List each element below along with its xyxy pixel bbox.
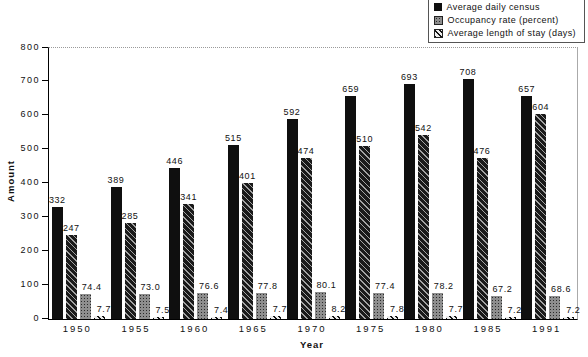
bar-1991-series3: 68.6 — [549, 296, 560, 319]
bar-value-label: 285 — [122, 211, 139, 221]
bar-1960-series3: 76.6 — [197, 293, 208, 319]
bar-value-label: 7.7 — [97, 304, 111, 314]
bar-value-label: 247 — [63, 223, 80, 233]
bar-value-label: 7.8 — [390, 304, 404, 314]
bar-1955-series4: 7.5 — [153, 317, 164, 320]
plot-area: 33224774.47.738928573.07.544634176.67.45… — [48, 47, 578, 320]
x-tick-label-1985: 1985 — [473, 323, 502, 334]
bar-value-label: 7.2 — [507, 305, 521, 315]
bar-value-label: 68.6 — [551, 284, 571, 294]
bar-value-label: 708 — [460, 67, 477, 77]
bar-value-label: 476 — [474, 146, 491, 156]
bar-1980-series3: 78.2 — [432, 293, 443, 320]
bar-value-label: 446 — [166, 156, 183, 166]
bar-group-1985: 70847667.27.2 — [460, 48, 519, 319]
y-tick-label: 200 — [8, 245, 40, 255]
y-tick-label: 0 — [8, 313, 40, 323]
y-axis-title: Amount — [5, 160, 16, 202]
bar-value-label: 7.5 — [155, 305, 169, 315]
bar-1975-series3: 77.4 — [373, 293, 384, 319]
bar-value-label: 77.8 — [258, 281, 278, 291]
bar-1955-series1: 389 — [111, 187, 122, 319]
x-tick-label-1965: 1965 — [239, 323, 268, 334]
bar-1975-series1: 659 — [345, 96, 356, 319]
chart-figure: Average daily censusOccupancy rate (perc… — [0, 0, 588, 357]
bar-value-label: 7.4 — [214, 305, 228, 315]
bar-group-1955: 38928573.07.5 — [108, 48, 167, 319]
bar-value-label: 401 — [239, 171, 256, 181]
y-tick-label: 100 — [8, 279, 40, 289]
y-tick-label: 700 — [8, 75, 40, 85]
bar-1955-series3: 73.0 — [139, 294, 150, 319]
bar-1985-series2: 476 — [477, 158, 488, 319]
bar-group-1970: 59247480.18.2 — [284, 48, 343, 319]
bar-value-label: 474 — [298, 146, 315, 156]
y-tick-label: 500 — [8, 143, 40, 153]
x-tick-label-1980: 1980 — [415, 323, 444, 334]
bar-1970-series4: 8.2 — [329, 316, 340, 319]
bar-value-label: 389 — [108, 175, 125, 185]
bar-value-label: 7.2 — [566, 305, 580, 315]
x-axis-title: Year — [300, 339, 324, 350]
bar-1991-series1: 657 — [521, 96, 532, 319]
solid-black-swatch-icon — [434, 3, 442, 11]
bar-1991-series4: 7.2 — [563, 317, 574, 319]
bar-group-1950: 33224774.47.7 — [49, 48, 108, 319]
legend-item: Average length of stay (days) — [434, 28, 577, 38]
bar-value-label: 67.2 — [492, 284, 512, 294]
bar-group-1960: 44634176.67.4 — [166, 48, 225, 319]
bar-value-label: 332 — [49, 195, 66, 205]
bar-1950-series3: 74.4 — [80, 294, 91, 319]
bar-1955-series2: 285 — [125, 223, 136, 320]
legend-item-label: Occupancy rate (percent) — [448, 15, 559, 25]
legend-item: Average daily census — [434, 2, 577, 12]
bar-value-label: 76.6 — [199, 281, 219, 291]
bar-1985-series4: 7.2 — [505, 317, 516, 319]
legend: Average daily censusOccupancy rate (perc… — [428, 0, 586, 43]
bar-value-label: 659 — [342, 84, 359, 94]
bar-value-label: 7.7 — [273, 304, 287, 314]
y-tick-label: 800 — [8, 42, 40, 52]
x-tick-label-1975: 1975 — [356, 323, 385, 334]
bar-value-label: 8.2 — [331, 304, 345, 314]
x-tick-label-1955: 1955 — [121, 323, 150, 334]
bar-1980-series1: 693 — [404, 84, 415, 319]
x-tick-label-1950: 1950 — [63, 323, 92, 334]
bar-value-label: 80.1 — [316, 280, 336, 290]
bar-1980-series2: 542 — [418, 135, 429, 319]
bar-1965-series3: 77.8 — [256, 293, 267, 319]
bar-value-label: 74.4 — [82, 282, 102, 292]
gray-dotted-swatch-icon — [434, 16, 443, 25]
bar-1965-series2: 401 — [242, 183, 253, 319]
bar-1975-series4: 7.8 — [387, 316, 398, 319]
bar-value-label: 592 — [284, 107, 301, 117]
bar-1960-series4: 7.4 — [211, 317, 222, 320]
bar-value-label: 73.0 — [140, 282, 160, 292]
bar-value-label: 604 — [532, 102, 549, 112]
bar-group-1975: 65951077.47.8 — [342, 48, 401, 319]
bar-1965-series1: 515 — [228, 145, 239, 320]
bar-1970-series2: 474 — [301, 158, 312, 319]
bar-value-label: 7.7 — [449, 304, 463, 314]
bar-1985-series3: 67.2 — [491, 296, 502, 319]
legend-item-label: Average daily census — [447, 2, 540, 12]
bar-value-label: 341 — [180, 192, 197, 202]
bar-1975-series2: 510 — [359, 146, 370, 319]
bar-1970-series3: 80.1 — [315, 292, 326, 319]
y-tick-label: 300 — [8, 211, 40, 221]
bar-value-label: 78.2 — [434, 281, 454, 291]
bar-1991-series2: 604 — [535, 114, 546, 319]
legend-item-label: Average length of stay (days) — [448, 28, 577, 38]
x-tick-label-1991: 1991 — [532, 323, 561, 334]
bar-1950-series4: 7.7 — [94, 316, 105, 319]
bar-value-label: 542 — [415, 123, 432, 133]
bar-1985-series1: 708 — [463, 79, 474, 319]
light-diagonal-hatch-swatch-icon — [434, 29, 443, 38]
legend-item: Occupancy rate (percent) — [434, 15, 577, 25]
bar-1980-series4: 7.7 — [446, 316, 457, 319]
x-tick-label-1960: 1960 — [180, 323, 209, 334]
bar-value-label: 657 — [518, 84, 535, 94]
bar-value-label: 515 — [225, 133, 242, 143]
bar-group-1965: 51540177.87.7 — [225, 48, 284, 319]
bar-group-1980: 69354278.27.7 — [401, 48, 460, 319]
